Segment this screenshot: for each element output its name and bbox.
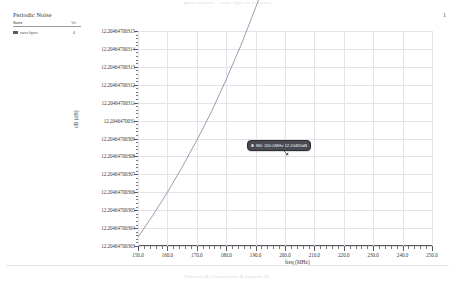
x-tick-minor: [385, 246, 386, 249]
x-tick-mark: [432, 246, 433, 251]
x-tick-minor: [361, 246, 362, 249]
x-tick-minor: [185, 246, 186, 249]
y-tick-label: 12.20464700315: [15, 28, 135, 34]
y-tick-label: 12.20464700312: [15, 82, 135, 88]
x-tick-minor: [291, 246, 292, 249]
x-tick-minor: [238, 246, 239, 249]
x-tick-minor: [150, 246, 151, 249]
x-tick-mark: [285, 246, 286, 251]
y-tick-label: 12.20464700306: [15, 189, 135, 195]
x-tick-minor: [273, 246, 274, 249]
x-tick-minor: [209, 246, 210, 249]
x-tick-minor: [397, 246, 398, 249]
y-tick-label: 12.20464700307: [15, 171, 135, 177]
y-tick-label: 12.20464700311: [15, 100, 135, 106]
x-tick-minor: [367, 246, 368, 249]
marker-tooltip-label: M0: 200.0MHz 12.20465dB: [256, 143, 307, 148]
x-tick-minor: [320, 246, 321, 249]
x-tick-minor: [309, 246, 310, 249]
x-tick-mark: [226, 246, 227, 251]
x-tick-label: 230.0: [367, 252, 378, 258]
x-tick-minor: [338, 246, 339, 249]
x-tick-minor: [356, 246, 357, 249]
data-curve: [138, 31, 432, 246]
x-tick-minor: [162, 246, 163, 249]
x-tick-mark: [344, 246, 345, 251]
y-tick-label: 12.20464700308: [15, 153, 135, 159]
x-tick-minor: [426, 246, 427, 249]
x-tick-label: 160.0: [162, 252, 173, 258]
x-tick-label: 180.0: [220, 252, 231, 258]
x-tick-minor: [191, 246, 192, 249]
x-tick-minor: [203, 246, 204, 249]
x-tick-minor: [179, 246, 180, 249]
x-tick-minor: [414, 246, 415, 249]
x-tick-label: 200.0: [279, 252, 290, 258]
x-tick-minor: [244, 246, 245, 249]
x-tick-minor: [350, 246, 351, 249]
y-tick-label: 12.20464700314: [15, 46, 135, 52]
x-tick-minor: [261, 246, 262, 249]
x-tick-mark: [138, 246, 139, 251]
x-tick-label: 250.0: [426, 252, 437, 258]
x-tick-label: 220.0: [338, 252, 349, 258]
y-tick-label: 12.20464700313: [15, 64, 135, 70]
x-tick-minor: [214, 246, 215, 249]
x-tick-mark: [314, 246, 315, 251]
bottom-caption: Virtuoso (R) Visualization & Analysis XL: [0, 274, 455, 279]
x-tick-minor: [144, 246, 145, 249]
x-tick-minor: [297, 246, 298, 249]
x-tick-mark: [373, 246, 374, 251]
x-tick-label: 190.0: [250, 252, 261, 258]
y-tick-label: 12.20464700303: [15, 243, 135, 249]
x-tick-label: 240.0: [397, 252, 408, 258]
x-tick-mark: [256, 246, 257, 251]
marker-tooltip[interactable]: M0: 200.0MHz 12.20465dB: [247, 140, 311, 151]
x-tick-label: 210.0: [309, 252, 320, 258]
x-tick-label: 150.0: [132, 252, 143, 258]
y-axis-title: dB (dB): [73, 110, 79, 128]
x-tick-label: 170.0: [191, 252, 202, 258]
x-tick-minor: [250, 246, 251, 249]
x-tick-minor: [232, 246, 233, 249]
x-tick-minor: [408, 246, 409, 249]
x-tick-minor: [267, 246, 268, 249]
grid-line-vertical: [432, 31, 433, 246]
footer-divider: [6, 265, 449, 266]
x-tick-minor: [173, 246, 174, 249]
x-tick-minor: [326, 246, 327, 249]
x-tick-mark: [403, 246, 404, 251]
x-tick-minor: [156, 246, 157, 249]
x-tick-minor: [279, 246, 280, 249]
x-tick-minor: [303, 246, 304, 249]
x-tick-minor: [379, 246, 380, 249]
y-tick-label: 12.20464700305: [15, 207, 135, 213]
x-tick-minor: [332, 246, 333, 249]
y-tick-label: 12.20464700304: [15, 225, 135, 231]
y-tick-label: 12.20464700309: [15, 136, 135, 142]
x-tick-mark: [197, 246, 198, 251]
plot-area[interactable]: 12.2046470030312.2046470030412.204647003…: [0, 0, 455, 284]
x-tick-mark: [167, 246, 168, 251]
marker-dot-icon: [251, 144, 254, 147]
x-tick-minor: [420, 246, 421, 249]
x-tick-minor: [391, 246, 392, 249]
x-tick-minor: [220, 246, 221, 249]
